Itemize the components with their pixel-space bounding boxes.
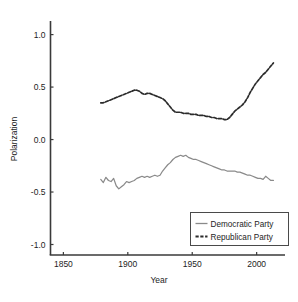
x-tick-label: 1900 xyxy=(118,259,137,269)
x-tick-label: 1850 xyxy=(54,259,73,269)
y-tick-label: 0.0 xyxy=(34,135,46,145)
y-tick-label: 0.5 xyxy=(34,82,46,92)
x-tick-label: 2000 xyxy=(247,259,266,269)
legend-label-democratic-party[interactable]: Democratic Party xyxy=(211,220,275,229)
y-tick-label: 1.0 xyxy=(34,30,46,40)
chart-legend[interactable]: Democratic PartyRepublican Party xyxy=(191,213,289,246)
x-tick-label: 1950 xyxy=(183,259,202,269)
chart-figure: 1.00.50.0-0.5-1.01850190019502000 Polari… xyxy=(0,0,298,302)
y-tick-label: -1.0 xyxy=(31,240,46,250)
y-axis-title: Polarization xyxy=(9,117,19,162)
plot-background xyxy=(0,0,298,302)
legend-label-republican-party[interactable]: Republican Party xyxy=(211,233,274,242)
y-tick-label: -0.5 xyxy=(31,187,46,197)
polarization-line-chart: 1.00.50.0-0.5-1.01850190019502000 Polari… xyxy=(0,0,298,302)
x-axis-title: Year xyxy=(150,275,167,285)
